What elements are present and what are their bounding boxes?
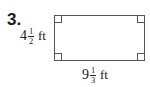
right-angle-mark-bottom-left bbox=[55, 53, 62, 60]
height-label: 4 1 2 ft bbox=[20, 27, 46, 45]
height-numerator: 1 bbox=[29, 27, 33, 35]
height-denominator: 2 bbox=[29, 37, 33, 45]
height-unit: ft bbox=[38, 28, 46, 44]
width-numerator: 1 bbox=[91, 66, 95, 74]
right-angle-mark-bottom-right bbox=[137, 53, 144, 60]
width-unit: ft bbox=[100, 67, 108, 83]
width-whole: 9 bbox=[82, 67, 89, 83]
width-denominator: 3 bbox=[91, 76, 95, 84]
width-fraction: 1 3 bbox=[90, 66, 96, 84]
right-angle-mark-top-left bbox=[55, 16, 62, 23]
height-fraction: 1 2 bbox=[28, 27, 34, 45]
rectangle-figure bbox=[54, 15, 145, 61]
height-whole: 4 bbox=[20, 28, 27, 44]
width-label: 9 1 3 ft bbox=[82, 66, 108, 84]
right-angle-mark-top-right bbox=[137, 16, 144, 23]
